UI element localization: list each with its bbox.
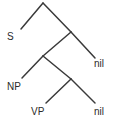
edge-node3-to-vp (46, 79, 71, 103)
tree-diagram: S nil NP VP nil (0, 0, 113, 124)
edge-node2-to-np (22, 56, 43, 78)
edge-node3-to-nil-lower (71, 79, 95, 103)
tree-node-label-s: S (7, 32, 14, 42)
tree-node-label-np: NP (7, 82, 21, 92)
edge-node1-to-nil-upper (71, 32, 95, 58)
edge-node1-to-node2 (43, 32, 71, 56)
edge-root-to-s (21, 3, 43, 29)
tree-node-label-nil-upper: nil (94, 59, 104, 69)
tree-node-label-vp: VP (31, 107, 44, 117)
edge-node2-to-node3 (43, 56, 71, 79)
tree-node-label-nil-lower: nil (94, 107, 104, 117)
edge-root-to-node1 (43, 3, 71, 32)
